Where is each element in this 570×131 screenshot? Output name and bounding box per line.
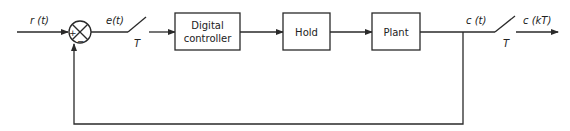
minus-sign: − [77,36,85,46]
summing-junction: + − [69,21,91,46]
block-plant: Plant [372,13,420,50]
switch-icon [128,17,146,32]
controller-label-line2: controller [184,33,233,44]
switch-icon [495,16,515,32]
block-diagram: r (t) + − e(t) T Digital controller Hold… [0,0,570,131]
controller-box [175,13,240,50]
input-label: r (t) [30,15,49,26]
sampler-error: T [128,17,146,49]
block-digital-controller: Digital controller [175,13,240,50]
sampled-output-signal: c (kT) [516,15,558,32]
plus-sign: + [69,28,77,38]
output-signal: c (t) [420,15,495,32]
error-signal: e(t) [91,15,128,32]
output-label: c (t) [466,15,486,26]
sampler-period-label: T [134,38,141,49]
error-label: e(t) [106,15,124,26]
sampler-period-label: T [503,38,510,49]
controller-label-line1: Digital [191,20,223,31]
sampled-output-label: c (kT) [523,15,551,26]
block-hold: Hold [283,13,330,50]
plant-label: Plant [383,27,408,38]
hold-label: Hold [295,27,318,38]
input-signal: r (t) [17,15,68,32]
sampler-output: T [495,16,515,49]
